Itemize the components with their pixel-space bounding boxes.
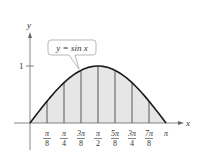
plot-area: x y 1 π8π43π8π25π83π47π8π y = sin x — [0, 0, 200, 157]
x-tick-numerator: π — [62, 129, 67, 138]
x-tick-denominator: 8 — [45, 139, 49, 148]
x-tick-numerator: 3π — [127, 129, 137, 138]
x-tick-numerator: 7π — [145, 129, 154, 138]
x-tick-denominator: 8 — [147, 139, 151, 148]
function-callout: y = sin x — [48, 40, 96, 69]
x-tick-denominator: 8 — [79, 139, 83, 148]
x-tick-labels: π8π43π8π25π83π47π8π — [43, 129, 169, 148]
x-tick-numerator: π — [45, 129, 50, 138]
x-tick-denominator: 2 — [96, 139, 100, 148]
x-tick-denominator: 4 — [62, 139, 66, 148]
x-tick-denominator: 8 — [113, 139, 117, 148]
x-tick-label-pi: π — [164, 129, 169, 138]
x-tick-numerator: π — [96, 129, 101, 138]
y-tick-label: 1 — [19, 61, 24, 71]
x-axis-arrow-icon — [178, 121, 184, 125]
x-tick-denominator: 4 — [130, 139, 134, 148]
function-label: y = sin x — [55, 43, 87, 53]
y-axis-label: y — [26, 20, 31, 30]
x-tick-numerator: 3π — [76, 129, 86, 138]
x-tick-numerator: 5π — [111, 129, 120, 138]
y-axis-arrow-icon — [28, 32, 32, 38]
sine-area-figure: x y 1 π8π43π8π25π83π47π8π y = sin x — [0, 0, 200, 157]
x-axis-label: x — [185, 118, 190, 128]
